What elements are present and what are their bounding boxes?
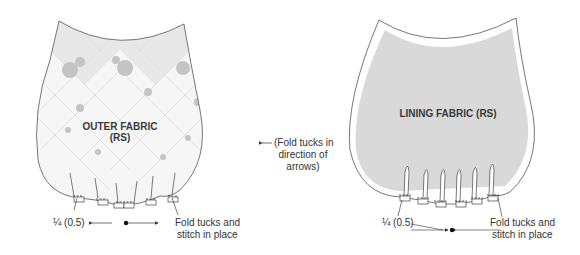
lining-fabric-title: LINING FABRIC (RS) xyxy=(399,108,496,119)
center-dot-icon xyxy=(124,221,128,225)
diagram-canvas: OUTER FABRIC (RS) ¼ (0.5) Fold tucks and… xyxy=(0,0,580,255)
outer-fabric-panel: OUTER FABRIC (RS) ¼ (0.5) Fold tucks and… xyxy=(30,15,240,240)
lining-seam-label: ¼ (0.5) xyxy=(382,217,414,228)
outer-callout-line1: Fold tucks and xyxy=(175,217,240,228)
center-note-line1: (Fold tucks in xyxy=(274,137,333,148)
outer-seam-label: ¼ (0.5) xyxy=(53,217,85,228)
outer-callout-line2: stitch in place xyxy=(177,229,238,240)
lining-fabric-panel: LINING FABRIC (RS) ¼ (0.5) Fold tucks an… xyxy=(349,18,555,240)
center-note: (Fold tucks in direction of arrows) xyxy=(262,137,333,172)
center-note-line2: direction of xyxy=(279,149,328,160)
center-note-line3: arrows) xyxy=(286,161,319,172)
lining-callout-line1: Fold tucks and xyxy=(490,217,555,228)
outer-fabric-title: OUTER FABRIC xyxy=(83,121,158,132)
center-dot-icon xyxy=(450,228,454,232)
lining-callout-line2: stitch in place xyxy=(492,229,553,240)
outer-fabric-subtitle: (RS) xyxy=(110,132,131,143)
